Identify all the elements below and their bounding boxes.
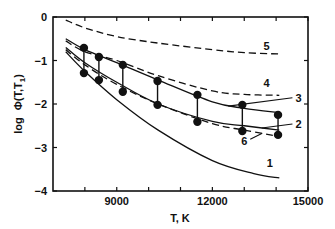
curve-label-3: 3 <box>295 92 301 104</box>
chart: 900012000150000−1−2−3−4 123456 T, K log … <box>0 0 335 229</box>
data-point-upper <box>80 44 88 52</box>
data-point-lower <box>193 118 201 126</box>
curve-4 <box>66 41 280 95</box>
y-label-func: Φ(T,T <box>12 82 24 110</box>
curve-label-5: 5 <box>264 40 270 52</box>
curve-5 <box>66 20 280 54</box>
y-tick-label: −4 <box>34 185 47 197</box>
y-tick-label: −3 <box>34 142 47 154</box>
curve-labels: 123456 <box>228 40 301 169</box>
x-tick-label: 15000 <box>293 195 324 207</box>
axis-ticks: 900012000150000−1−2−3−4 <box>34 11 323 207</box>
svg-text:log Φ(T,T1): log Φ(T,T1) <box>12 74 27 134</box>
data-point-lower <box>274 131 282 139</box>
data-point-lower <box>238 127 246 135</box>
curve-label-4: 4 <box>264 77 271 89</box>
x-axis-label: T, K <box>170 212 190 224</box>
curve-3 <box>66 39 280 113</box>
curve-label-6: 6 <box>241 135 247 147</box>
data-point-upper <box>95 53 103 61</box>
y-tick-label: 0 <box>41 11 47 23</box>
y-label-suffix: ) <box>12 74 24 78</box>
y-label-prefix: log <box>12 117 24 134</box>
y-axis-label: log Φ(T,T1) <box>12 74 27 134</box>
data-point-lower <box>153 101 161 109</box>
curve-6 <box>66 50 280 137</box>
data-point-upper <box>119 61 127 69</box>
data-point-lower <box>95 76 103 84</box>
data-point-lower <box>80 69 88 77</box>
data-point-lower <box>119 88 127 96</box>
x-tick-label: 12000 <box>197 195 228 207</box>
x-tick-label: 9000 <box>105 195 129 207</box>
data-point-upper <box>274 111 282 119</box>
data-point-upper <box>193 91 201 99</box>
y-tick-label: −2 <box>34 98 47 110</box>
curve-label-1: 1 <box>267 157 273 169</box>
y-tick-label: −1 <box>34 55 47 67</box>
curves <box>66 20 280 178</box>
curve-label-2: 2 <box>295 118 301 130</box>
data-point-upper <box>153 77 161 85</box>
